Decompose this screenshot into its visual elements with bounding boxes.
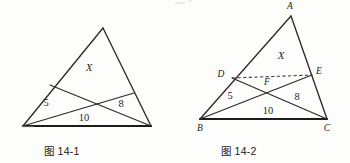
dashed-segment-de: [232, 75, 312, 78]
vertex-label-b: B: [197, 123, 203, 133]
cevian-cd: [232, 78, 327, 119]
cevian-from-bottom-right: [50, 85, 151, 126]
triangle-right-side: [103, 28, 151, 126]
area-label-10-right-figure: 10: [263, 105, 274, 116]
figure-14-2: A B C D E F X 5 10 8: [175, 0, 350, 140]
scan-speck: [175, 2, 185, 4]
caption-figure-14-2: 图 14-2: [221, 143, 257, 158]
area-label-8-right-figure: 8: [294, 91, 299, 102]
area-label-5-left-figure: 5: [43, 97, 48, 108]
point-label-d: D: [217, 69, 225, 79]
figure-14-1: X 5 10 8: [0, 0, 175, 140]
point-label-f: F: [263, 77, 270, 87]
vertex-label-a: A: [286, 1, 293, 11]
area-label-5-right-figure: 5: [227, 90, 232, 101]
point-label-e: E: [315, 66, 322, 76]
scan-speck: [20, 126, 34, 128]
area-label-8-left-figure: 8: [118, 98, 123, 109]
triangle-left-side: [23, 28, 103, 126]
region-label-x-right-figure: X: [277, 49, 286, 61]
scan-speck: [188, 0, 192, 2]
vertex-label-c: C: [324, 123, 331, 133]
area-label-10-left-figure: 10: [79, 112, 90, 123]
caption-figure-14-1: 图 14-1: [44, 143, 80, 158]
triangle-side-ab: [200, 16, 291, 119]
figure-page: X 5 10 8 图 14-1 A B C D E F X 5 10 8 图 1…: [0, 0, 350, 163]
region-label-x-left-figure: X: [85, 61, 94, 73]
